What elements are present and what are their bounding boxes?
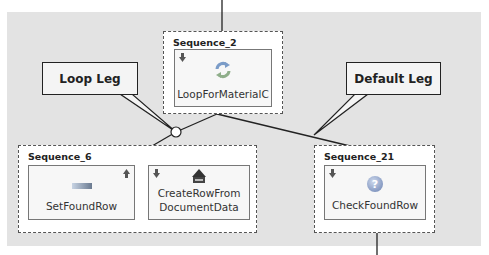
sequence-21[interactable]: Sequence_21 ? CheckFoundRow	[314, 145, 435, 233]
down-arrow-icon	[329, 169, 336, 178]
step-label: CheckFoundRow	[325, 198, 425, 212]
loop-junction-node	[171, 127, 181, 137]
sequence-title: Sequence_6	[28, 151, 92, 162]
question-icon: ?	[366, 175, 384, 193]
loop-icon	[213, 60, 233, 80]
step-label: SetFoundRow	[29, 199, 134, 213]
step-label: LoopForMaterialC	[175, 87, 271, 101]
step-label-line1: CreateRowFrom	[149, 186, 249, 200]
sequence-2[interactable]: Sequence_2 LoopForMaterialC	[163, 31, 283, 114]
step-set-found-row[interactable]: SetFoundRow	[28, 165, 135, 220]
sequence-title: Sequence_2	[173, 37, 237, 48]
default-leg-callout: Default Leg	[346, 62, 441, 95]
loop-leg-label: Loop Leg	[59, 72, 120, 86]
step-check-found-row[interactable]: ? CheckFoundRow	[324, 165, 426, 220]
step-loop-for-material[interactable]: LoopForMaterialC	[174, 49, 272, 107]
step-create-row-from-document-data[interactable]: CreateRowFrom DocumentData	[148, 165, 250, 220]
create-row-icon	[191, 169, 207, 184]
sequence-title: Sequence_21	[324, 151, 394, 162]
down-arrow-icon	[179, 53, 186, 62]
up-arrow-icon	[123, 169, 130, 178]
container-operation-icon	[72, 181, 92, 191]
step-label-line2: DocumentData	[149, 200, 249, 214]
down-arrow-icon	[153, 169, 160, 178]
loop-leg-callout: Loop Leg	[42, 62, 138, 95]
default-leg-label: Default Leg	[354, 72, 432, 86]
svg-text:?: ?	[372, 178, 378, 191]
sequence-6[interactable]: Sequence_6 SetFoundRow CreateRowFrom Doc…	[18, 145, 257, 233]
